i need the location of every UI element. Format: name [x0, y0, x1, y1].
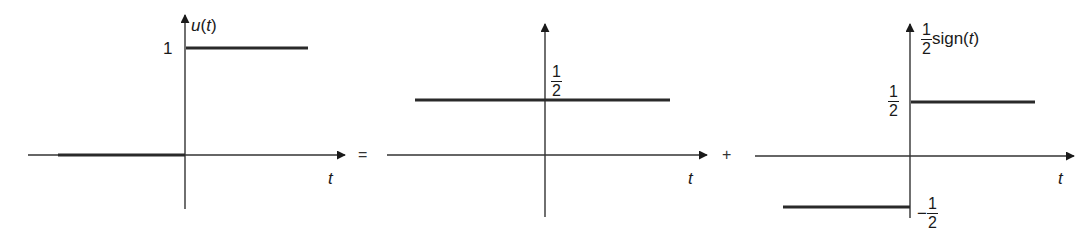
xlabel-t: t	[1058, 170, 1063, 187]
plus-operator: +	[722, 147, 731, 163]
panel-constant-half	[387, 24, 707, 217]
panel-unit-step	[28, 15, 345, 209]
frac-den: 2	[889, 102, 898, 119]
tick-label-half: 12	[888, 84, 899, 119]
xlabel-t: t	[688, 170, 693, 187]
func-arg: t	[206, 16, 211, 35]
equals-operator: =	[358, 147, 367, 163]
tick-label-half: 12	[551, 64, 562, 99]
ylabel-unit-step: u(t)	[191, 17, 217, 34]
panel-half-sign	[755, 24, 1074, 218]
frac-num: 1	[888, 84, 899, 102]
minus-sign: −	[917, 204, 927, 223]
func-name: u	[191, 16, 200, 35]
frac-num: 1	[927, 196, 938, 214]
frac-num: 1	[921, 22, 932, 40]
tick-label-neg-half: −12	[917, 196, 938, 231]
frac-den: 2	[922, 40, 931, 57]
xlabel-t: t	[328, 170, 333, 187]
frac-num: 1	[551, 64, 562, 82]
func-arg: t	[969, 29, 974, 48]
frac-den: 2	[928, 214, 937, 231]
tick-label-one: 1	[163, 40, 172, 57]
func-name: sign	[932, 29, 963, 48]
frac-den: 2	[552, 82, 561, 99]
ylabel-half-sign: 12sign(t)	[921, 22, 979, 57]
